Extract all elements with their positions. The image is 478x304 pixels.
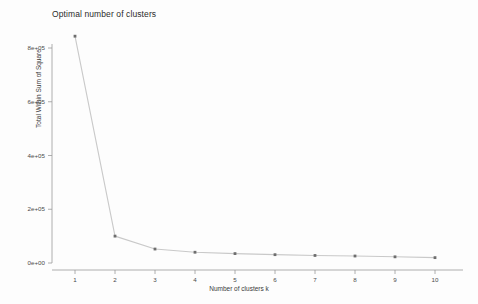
svg-text:0e+00: 0e+00 (28, 259, 46, 266)
chart-canvas: Optimal number of clusters Total Within … (0, 0, 478, 304)
plot-area: 0e+002e+054e+056e+058e+05 12345678910 (0, 0, 478, 304)
data-point (114, 235, 117, 238)
data-point (434, 256, 437, 259)
y-axis: 0e+002e+054e+056e+058e+05 (28, 44, 52, 266)
data-point (154, 248, 157, 251)
svg-text:4e+05: 4e+05 (28, 152, 46, 159)
data-point (314, 254, 317, 257)
svg-text:5: 5 (233, 276, 237, 283)
svg-text:2e+05: 2e+05 (28, 205, 46, 212)
data-point (194, 251, 197, 254)
data-point (74, 35, 77, 38)
svg-text:8: 8 (353, 276, 357, 283)
x-axis: 12345678910 (52, 270, 463, 283)
data-point (394, 255, 397, 258)
svg-text:9: 9 (393, 276, 397, 283)
data-point (354, 255, 357, 258)
svg-text:8e+05: 8e+05 (28, 44, 46, 51)
svg-text:6e+05: 6e+05 (28, 98, 46, 105)
svg-text:10: 10 (432, 276, 439, 283)
data-series (74, 35, 437, 259)
svg-text:3: 3 (153, 276, 157, 283)
data-point (274, 253, 277, 256)
data-point (234, 252, 237, 255)
svg-text:6: 6 (273, 276, 277, 283)
svg-text:2: 2 (113, 276, 117, 283)
svg-text:4: 4 (193, 276, 197, 283)
svg-text:7: 7 (313, 276, 317, 283)
svg-text:1: 1 (73, 276, 77, 283)
